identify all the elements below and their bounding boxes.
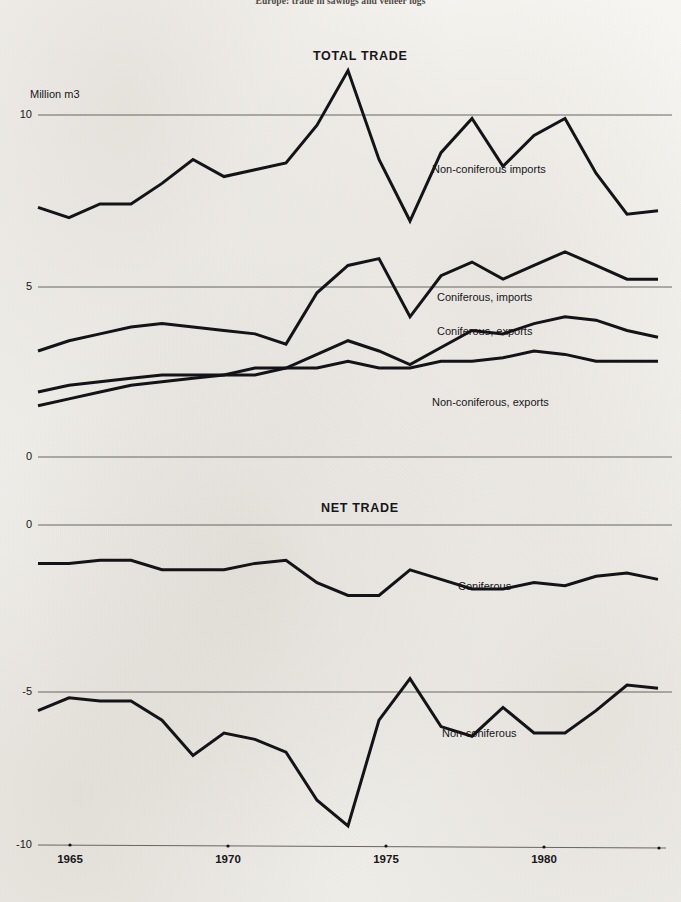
figure-page: Europe: trade in sawlogs and veneer logs… (0, 0, 681, 902)
line-coniferous-imports (38, 252, 658, 351)
x-tickmark-1970 (226, 844, 229, 847)
series-lines-bottom-panel (38, 560, 658, 826)
axis-line-bottom-minus10 (38, 845, 666, 848)
x-tickmark-1980 (542, 845, 545, 848)
chart-canvas (0, 0, 681, 902)
line-net-coniferous (38, 560, 658, 595)
line-net-nonconiferous (38, 679, 658, 826)
x-tickmark-1975 (384, 844, 387, 847)
series-lines-top-panel (38, 71, 658, 406)
line-nonconiferous-imports (38, 71, 658, 221)
gridlines-top-panel (38, 115, 672, 457)
x-tickmark-1965 (68, 843, 71, 846)
x-tickmark-end (657, 846, 660, 849)
